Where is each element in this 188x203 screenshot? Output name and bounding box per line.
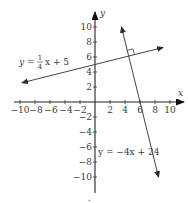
coordinate-plane-figure: −10 −8 −6 −4 −2 2 4 6 8 10 10 8 6 4 2 −2…	[0, 0, 188, 203]
line-y-quarter-x-plus-5	[22, 78, 40, 83]
y-tick-label: −10	[73, 172, 92, 182]
x-tick-label: −6	[44, 105, 58, 115]
eq1-numerator: 1	[38, 54, 42, 62]
y-tick-label: −6	[79, 142, 93, 152]
x-tick-label: 10	[164, 105, 176, 115]
x-tick-label: −8	[29, 105, 43, 115]
y-tick-label: 10	[81, 22, 93, 32]
y-axis-label: y	[99, 8, 106, 18]
eq1-rhs: x + 5	[45, 57, 69, 67]
eq1-denominator: 4	[38, 63, 43, 71]
y-tick-label: 8	[86, 37, 92, 47]
x-tick-label: 4	[122, 105, 128, 115]
y-tick-label: 2	[86, 82, 92, 92]
x-tick-label: 2	[107, 105, 113, 115]
x-tick-label: 8	[152, 105, 158, 115]
equation-label-1: y = 1 4 x + 5	[18, 54, 69, 71]
x-tick-labels: −10 −8 −6 −4 −2 2 4 6 8 10	[11, 105, 176, 115]
footer-mark: .	[88, 193, 91, 203]
y-tick-label: −2	[79, 112, 92, 122]
x-tick-label: −4	[59, 105, 73, 115]
y-tick-label: −8	[79, 157, 93, 167]
y-tick-label: 6	[86, 52, 92, 62]
eq1-lhs: y =	[18, 57, 35, 67]
y-tick-label: 4	[86, 67, 92, 77]
y-tick-label: −4	[79, 127, 93, 137]
graph-svg: −10 −8 −6 −4 −2 2 4 6 8 10 10 8 6 4 2 −2…	[0, 0, 188, 203]
x-tick-label: −10	[11, 105, 30, 115]
line-y-neg4x-plus-24	[122, 27, 141, 102]
x-axis-label: x	[178, 88, 183, 98]
equation-label-2: y = −4x + 24	[97, 147, 160, 157]
